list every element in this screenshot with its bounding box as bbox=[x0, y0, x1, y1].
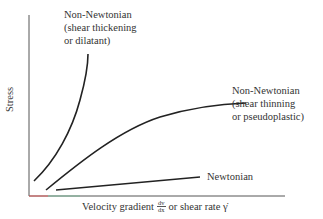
x-axis-label-suffix: or shear rate γ̇ bbox=[169, 201, 228, 212]
pseudoplastic-label-line-3: or pseudoplastic) bbox=[232, 110, 304, 123]
dilatant-label-line-2: (shear thickening bbox=[64, 21, 137, 34]
x-axis-label: Velocity gradient dv dx or shear rate γ̇ bbox=[82, 200, 228, 213]
x-axis-fraction: dv dx bbox=[157, 200, 166, 213]
pseudoplastic-label: Non-Newtonian (shear thinning or pseudop… bbox=[232, 84, 304, 123]
pseudoplastic-label-line-2: (shear thinning bbox=[232, 97, 304, 110]
y-axis-label: Stress bbox=[4, 87, 15, 112]
pseudoplastic-label-line-1: Non-Newtonian bbox=[232, 84, 304, 97]
dilatant-label-line-3: or dilatant) bbox=[64, 34, 137, 47]
dilatant-curve bbox=[34, 54, 88, 181]
dilatant-label-line-1: Non-Newtonian bbox=[64, 8, 137, 21]
newtonian-line bbox=[56, 177, 200, 190]
fraction-denominator: dx bbox=[158, 207, 165, 213]
dilatant-label: Non-Newtonian (shear thickening or dilat… bbox=[64, 8, 137, 47]
x-axis-label-prefix: Velocity gradient bbox=[82, 201, 154, 212]
newtonian-label: Newtonian bbox=[207, 170, 253, 183]
